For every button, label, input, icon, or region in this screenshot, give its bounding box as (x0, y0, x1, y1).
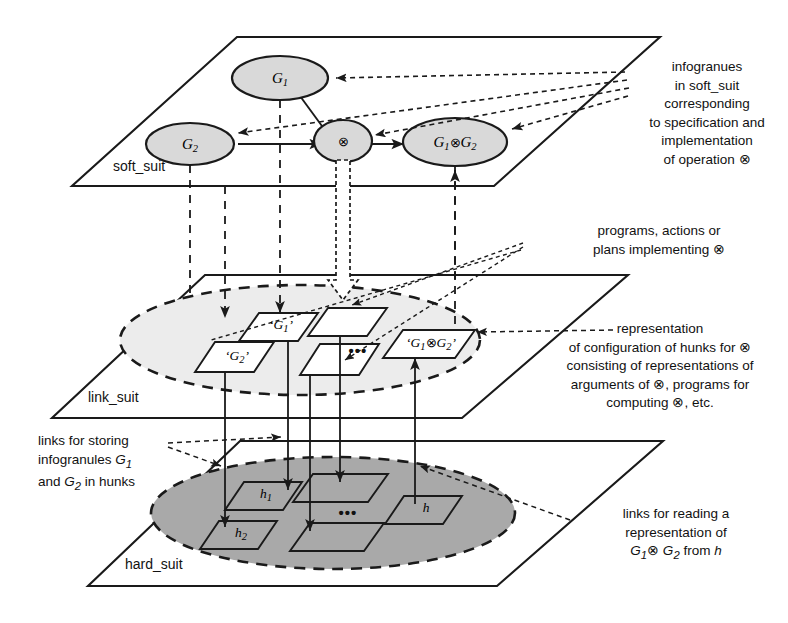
hunk-label-g2-prime: ‘G2’ (225, 348, 249, 365)
annotation-representation-configuration: representation of configuration of hunks… (534, 320, 786, 413)
node-label-g1-op-g2: G1⊗G2 (433, 134, 476, 152)
hunk-label-h2: h2 (235, 525, 247, 542)
hunk-label-g1g2-prime: ‘G1⊗G2’ (406, 335, 456, 352)
node-label-g1: G1 (272, 70, 288, 88)
plane-label-hard-suit: hard_suit (125, 556, 183, 572)
annotation-links-for-reading: links for reading a representation of G1… (576, 505, 776, 564)
annotation-infogranules-soft-suit: infogranues in soft_suit corresponding t… (628, 58, 786, 169)
hunk-label-h1: h1 (260, 486, 272, 503)
annotation-links-for-storing: links for storing infogranules G1 and G2… (38, 432, 188, 495)
hard-suit-ellipsis: ••• (339, 504, 358, 521)
node-label-op: ⊗ (338, 133, 349, 150)
hunk-label-h: h (423, 500, 430, 516)
hunk-label-g1-prime: ‘G1’ (269, 317, 293, 334)
annotation-programs-actions: programs, actions or plans implementing … (534, 222, 784, 259)
plane-label-link-suit: link_suit (88, 389, 139, 405)
plane-label-soft-suit: soft_suit (113, 158, 165, 174)
diagram-canvas: soft_suit link_suit hard_suit G1 G2 ⊗ G1… (0, 0, 788, 623)
link-suit-ellipsis: ••• (349, 342, 368, 359)
node-label-g2: G2 (182, 136, 198, 154)
